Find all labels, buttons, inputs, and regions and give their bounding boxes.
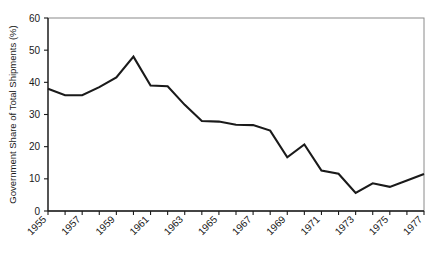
y-tick-label: 30 [29,109,41,120]
y-axis-title: Government Share of Total Shipments (%) [7,25,18,203]
y-tick-label: 40 [29,77,41,88]
y-tick-label: 10 [29,173,41,184]
y-tick-label: 20 [29,141,41,152]
x-tick-label: 1967 [230,213,254,237]
x-tick-label: 1973 [333,213,357,237]
x-tick-label: 1955 [25,213,49,237]
y-tick-label: 50 [29,45,41,56]
y-tick-label: 60 [29,13,41,24]
x-tick-label: 1959 [93,213,117,237]
x-tick-label: 1965 [196,213,220,237]
x-tick-label: 1977 [401,213,425,237]
chart-page: 0102030405060 19551957195919611963196519… [0,0,438,259]
x-tick-label: 1971 [298,213,322,237]
x-tick-label: 1963 [162,213,186,237]
x-tick-label: 1969 [264,213,288,237]
x-tick-label: 1961 [127,213,151,237]
plot-frame [48,18,424,211]
x-tick-label: 1957 [59,213,83,237]
line-chart: 0102030405060 19551957195919611963196519… [0,0,438,259]
x-tick-label: 1975 [367,213,391,237]
x-axis-tick-labels: 1955195719591961196319651967196919711973… [25,213,425,237]
y-axis-tick-labels: 0102030405060 [29,13,41,217]
